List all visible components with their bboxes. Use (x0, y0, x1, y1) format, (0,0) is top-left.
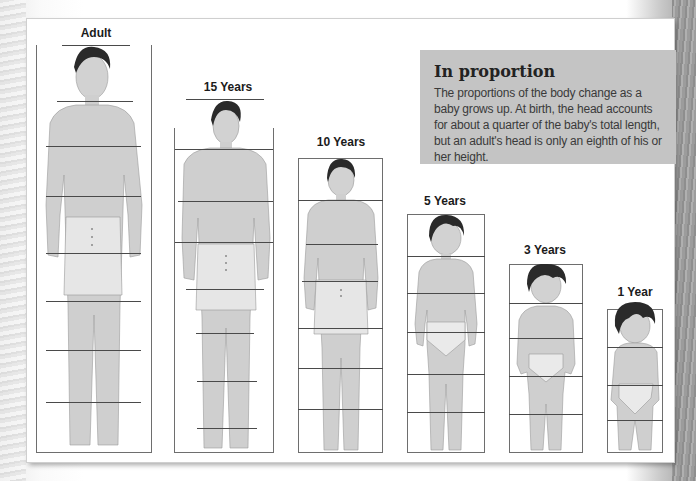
head-unit-line (62, 45, 130, 46)
head-unit-line (607, 385, 663, 386)
head-unit-line (197, 381, 257, 382)
figure-label: Adult (81, 26, 112, 40)
teen-body-illustration (174, 98, 274, 453)
head-unit-line (197, 428, 257, 429)
head-unit-line (407, 293, 485, 294)
head-unit-line (298, 368, 383, 369)
head-unit-line (302, 281, 378, 282)
head-unit-line (407, 332, 485, 333)
head-unit-line (298, 409, 383, 410)
head-unit-line (186, 99, 264, 100)
head-unit-line (196, 333, 254, 334)
head-unit-line (46, 146, 141, 147)
head-unit-line (175, 242, 273, 243)
head-unit-line (407, 374, 485, 375)
head-unit-line (509, 414, 583, 415)
figure-label: 10 Years (317, 135, 366, 149)
head-unit-line (186, 289, 264, 290)
head-unit-line (298, 200, 383, 201)
figure-label: 1 Year (617, 285, 652, 299)
info-title: In proportion (434, 62, 664, 81)
info-box: In proportion The proportions of the bod… (420, 50, 676, 164)
head-unit-line (46, 402, 141, 403)
head-unit-line (607, 347, 663, 348)
head-unit-line (46, 196, 141, 197)
child-5-body-illustration (407, 214, 485, 453)
child-3-body-illustration (509, 264, 583, 453)
head-unit-line (298, 328, 383, 329)
head-unit-line (509, 376, 583, 377)
background-texture-left (0, 0, 26, 481)
head-unit-line (407, 412, 485, 413)
figure-label: 3 Years (524, 243, 566, 257)
head-unit-line (509, 338, 583, 339)
info-body: The proportions of the body change as a … (434, 85, 664, 165)
head-unit-line (57, 101, 133, 102)
head-unit-line (178, 201, 273, 202)
head-unit-line (306, 244, 378, 245)
head-unit-line (509, 303, 583, 304)
head-unit-line (407, 256, 485, 257)
head-unit-line (175, 149, 273, 150)
head-unit-line (607, 420, 663, 421)
figure-label: 15 Years (204, 80, 253, 94)
head-unit-line (46, 301, 141, 302)
baby-body-illustration (607, 300, 663, 453)
adult-body-illustration (36, 45, 152, 453)
head-unit-line (46, 350, 141, 351)
head-unit-line (46, 253, 141, 254)
figure-label: 5 Years (424, 194, 466, 208)
